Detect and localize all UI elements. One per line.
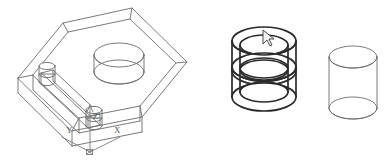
object-single-cylinder[interactable] [329, 46, 377, 119]
box-cylinder-holes [94, 43, 144, 84]
ucs-label-y: Y [66, 125, 73, 135]
cad-viewport[interactable]: .ln { fill:none; stroke:#6b6b6b; stroke-… [0, 0, 390, 168]
ucs-label-x: X [114, 125, 121, 135]
box-front-faces [18, 75, 142, 146]
object-box-solid[interactable] [18, 8, 187, 146]
drawing-canvas[interactable]: .ln { fill:none; stroke:#6b6b6b; stroke-… [0, 0, 390, 168]
box-rail-slot [41, 70, 100, 128]
ucs-label-z: Z [93, 111, 99, 121]
